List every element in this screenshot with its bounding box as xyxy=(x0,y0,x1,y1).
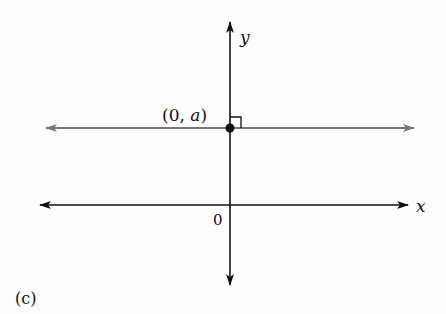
coordinate-diagram: (0, a) y x 0 (c) xyxy=(0,0,446,314)
point-0-a xyxy=(226,124,235,133)
point-label: (0, a) xyxy=(162,105,207,125)
panel-label: (c) xyxy=(15,289,36,308)
figure: (0, a) y x 0 (c) xyxy=(0,0,446,314)
x-axis-label: x xyxy=(416,196,426,216)
origin-label: 0 xyxy=(213,211,223,229)
y-axis-label: y xyxy=(239,27,250,47)
